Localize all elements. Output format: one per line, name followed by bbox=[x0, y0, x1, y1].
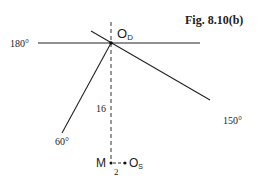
label-2: 2 bbox=[114, 167, 119, 177]
point-m bbox=[110, 162, 113, 165]
origin-point-od bbox=[109, 41, 113, 45]
label-16: 16 bbox=[96, 103, 106, 114]
label-os: OS bbox=[129, 156, 143, 170]
label-od: OD bbox=[117, 26, 133, 42]
label-60: 60° bbox=[55, 136, 69, 147]
label-m: M bbox=[96, 156, 106, 170]
line-150 bbox=[91, 31, 210, 100]
label-150: 150° bbox=[223, 115, 242, 126]
label-180: 180° bbox=[10, 38, 29, 49]
diagram-canvas: Fig. 8.10(b) OD 180° 150° 60° 16 M 2 OS bbox=[0, 0, 257, 185]
point-os bbox=[124, 162, 127, 165]
line-60 bbox=[62, 43, 111, 133]
figure-title: Fig. 8.10(b) bbox=[185, 13, 243, 27]
